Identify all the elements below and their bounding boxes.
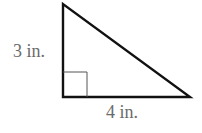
triangle	[63, 4, 190, 97]
vertical-leg-label: 3 in.	[13, 41, 45, 61]
right-triangle-diagram: 3 in. 4 in.	[0, 0, 202, 133]
horizontal-leg-label: 4 in.	[106, 102, 138, 122]
right-angle-marker	[63, 72, 87, 97]
